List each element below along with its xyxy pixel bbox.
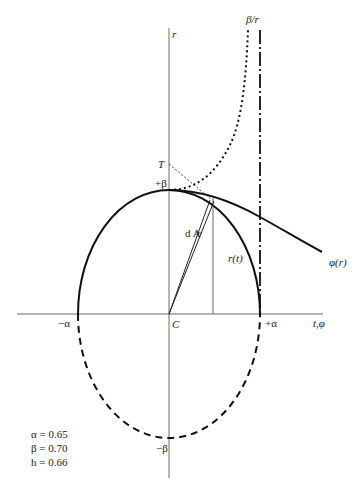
minus-beta-label: −β: [156, 442, 168, 454]
r-axis-label: r: [172, 28, 177, 40]
minus-alpha-label: −α: [58, 317, 70, 329]
phi-r-curve: [169, 190, 322, 252]
beta-over-r-curve: [169, 30, 248, 190]
parameter-list: α = 0.65 β = 0.70 h = 0.66: [31, 427, 68, 469]
area-element-line-1: [169, 200, 210, 314]
plus-beta-label: +β: [155, 177, 167, 189]
ellipse-diagram: r β/r T +β d A r(t) φ(r) −α C +α t,φ −β: [0, 0, 358, 494]
alpha-parameter: α = 0.65: [31, 427, 68, 441]
plus-alpha-label: +α: [265, 317, 277, 329]
T-label: T: [158, 158, 165, 170]
phi-r-label: φ(r): [329, 256, 347, 269]
beta-parameter: β = 0.70: [31, 441, 68, 455]
t-phi-axis-label: t,φ: [313, 317, 325, 329]
r-t-label: r(t): [228, 252, 243, 265]
area-element-line-2: [169, 201, 214, 314]
origin-C-label: C: [172, 318, 180, 330]
dA-label: d A: [185, 227, 201, 239]
h-parameter: h = 0.66: [31, 455, 68, 469]
beta-over-r-label: β/r: [245, 13, 260, 25]
